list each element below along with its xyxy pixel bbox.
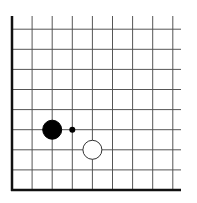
board-edges	[11, 16, 181, 191]
grid-lines	[12, 16, 181, 190]
black-stone-icon	[43, 120, 62, 139]
white-stone-icon	[83, 140, 102, 159]
markers	[69, 127, 75, 133]
dot-marker-icon	[69, 127, 75, 133]
go-board-diagram	[0, 0, 197, 203]
